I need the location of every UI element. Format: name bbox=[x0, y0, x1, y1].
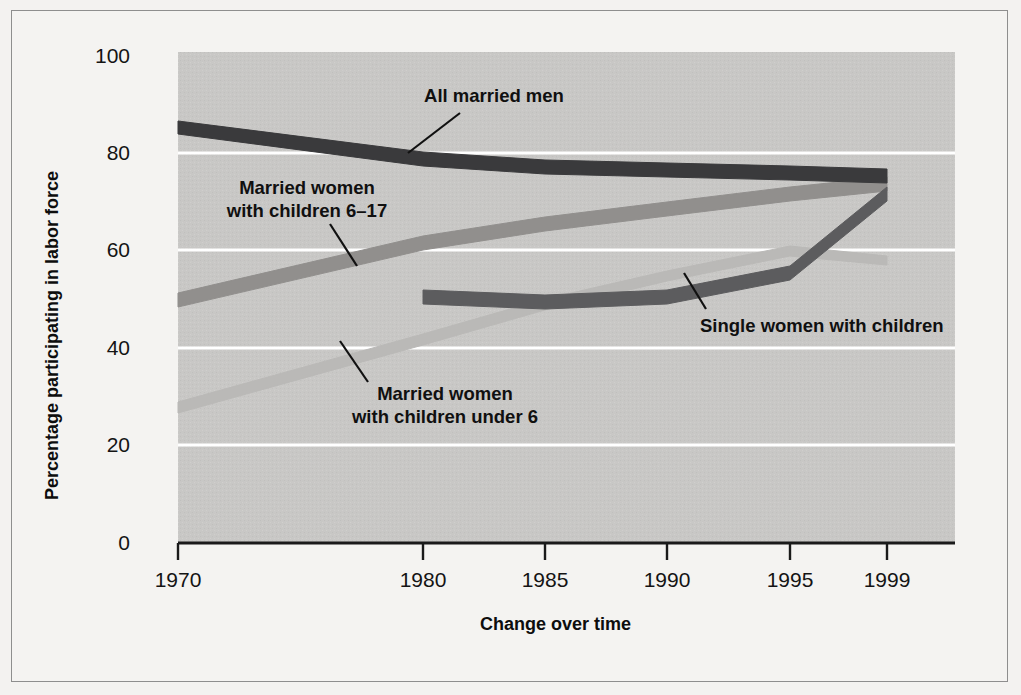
series-label-all-married-men: All married men bbox=[394, 84, 594, 107]
series-label-single-women-with-children: Single women with children bbox=[700, 314, 990, 337]
figure-page: 100 80 60 40 20 0 1970 1980 1985 1990 19… bbox=[0, 0, 1021, 695]
x-tick-label-1995: 1995 bbox=[740, 568, 840, 592]
y-axis-title: Percentage participating in labor force bbox=[42, 171, 63, 500]
x-axis-ticks bbox=[178, 543, 887, 560]
x-axis-title: Change over time bbox=[480, 614, 631, 635]
y-tick-label-80: 80 bbox=[60, 141, 130, 165]
axis-lines bbox=[178, 543, 955, 560]
y-tick-label-60: 60 bbox=[60, 238, 130, 262]
line-chart: 100 80 60 40 20 0 1970 1980 1985 1990 19… bbox=[0, 0, 1021, 695]
x-tick-label-1985: 1985 bbox=[495, 568, 595, 592]
x-tick-label-1970: 1970 bbox=[128, 568, 228, 592]
series-label-married-women-under-6: Married women with children under 6 bbox=[334, 382, 556, 428]
y-tick-label-100: 100 bbox=[60, 44, 130, 68]
x-tick-label-1999: 1999 bbox=[837, 568, 937, 592]
y-tick-label-40: 40 bbox=[60, 336, 130, 360]
x-tick-label-1990: 1990 bbox=[617, 568, 717, 592]
series-label-married-women-6-17: Married women with children 6–17 bbox=[207, 176, 407, 222]
y-tick-label-20: 20 bbox=[60, 433, 130, 457]
x-tick-label-1980: 1980 bbox=[373, 568, 473, 592]
y-tick-label-0: 0 bbox=[60, 531, 130, 555]
